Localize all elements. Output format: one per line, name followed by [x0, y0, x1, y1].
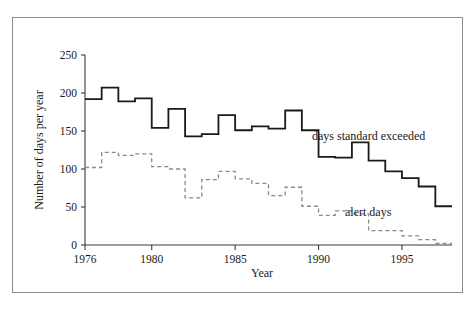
y-ticks: 050100150200250 [60, 49, 85, 251]
x-tick-label: 1995 [390, 253, 413, 265]
chart-plot: 050100150200250 19761980198519901995 Yea… [0, 0, 476, 311]
x-tick-label: 1980 [140, 253, 163, 265]
figure-container: 050100150200250 19761980198519901995 Yea… [0, 0, 476, 311]
series-alert-days [85, 152, 452, 243]
annotation-days-standard-exceeded: days standard exceeded [312, 129, 425, 143]
y-axis-title: Number of days per year [32, 90, 46, 209]
y-tick-label: 150 [60, 125, 78, 137]
series-days-standard-exceeded [85, 88, 452, 207]
x-tick-label: 1985 [224, 253, 247, 265]
x-tick-label: 1976 [74, 253, 97, 265]
series-layer [85, 88, 452, 244]
x-axis-title: Year [251, 266, 273, 280]
annotation-alert-days: alert days [345, 205, 392, 219]
y-tick-label: 200 [60, 87, 78, 99]
x-tick-label: 1990 [307, 253, 330, 265]
y-tick-label: 50 [66, 201, 78, 213]
axis-group [85, 55, 452, 245]
y-tick-label: 250 [60, 49, 78, 61]
y-tick-label: 100 [60, 163, 78, 175]
x-ticks: 19761980198519901995 [74, 245, 414, 265]
y-tick-label: 0 [71, 239, 77, 251]
